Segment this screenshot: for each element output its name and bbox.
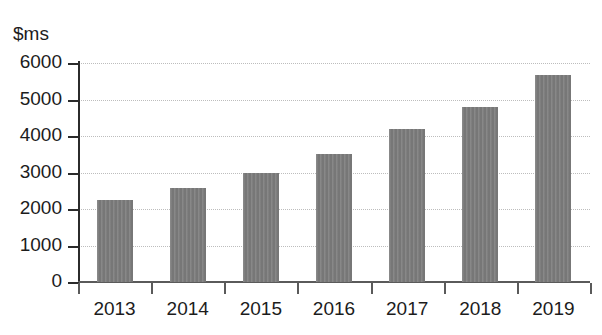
bar xyxy=(243,173,279,283)
bar xyxy=(462,107,498,282)
x-axis-tick-label: 2013 xyxy=(75,298,155,320)
bar xyxy=(97,200,133,282)
bar-series xyxy=(78,63,590,282)
y-axis-unit-label: $ms xyxy=(13,23,49,45)
bar xyxy=(316,154,352,282)
x-axis-tick xyxy=(517,283,519,294)
x-axis-tick xyxy=(78,283,80,294)
y-axis-tick-label: 6000 xyxy=(0,51,62,73)
y-axis-tick-label: 2000 xyxy=(0,197,62,219)
x-axis-tick-label: 2017 xyxy=(367,298,447,320)
x-axis-tick-label: 2019 xyxy=(513,298,593,320)
bar xyxy=(535,75,571,282)
x-axis-tick xyxy=(371,283,373,294)
x-axis-tick-label: 2016 xyxy=(294,298,374,320)
x-axis-tick xyxy=(224,283,226,294)
y-axis-tick-label: 1000 xyxy=(0,234,62,256)
bar-chart: $ms 0100020003000400050006000 2013201420… xyxy=(0,0,602,335)
y-axis-tick-label: 3000 xyxy=(0,161,62,183)
bar xyxy=(389,129,425,282)
x-axis-tick-label: 2015 xyxy=(221,298,301,320)
bar xyxy=(170,188,206,282)
y-axis-tick-label: 4000 xyxy=(0,124,62,146)
x-axis-tick-label: 2018 xyxy=(440,298,520,320)
y-axis-tick-label: 0 xyxy=(0,270,62,292)
y-axis-tick-label: 5000 xyxy=(0,88,62,110)
x-axis-tick xyxy=(444,283,446,294)
x-axis-tick xyxy=(590,283,592,294)
x-axis-tick xyxy=(151,283,153,294)
x-axis-tick-label: 2014 xyxy=(148,298,228,320)
x-axis-tick xyxy=(297,283,299,294)
